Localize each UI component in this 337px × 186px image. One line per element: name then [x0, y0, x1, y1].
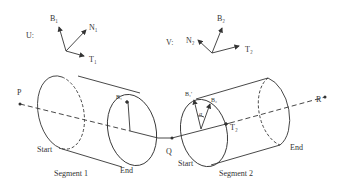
frame-u-label: U:: [26, 31, 34, 40]
segment1-name: Segment 1: [54, 169, 88, 178]
segment2-end-label: End: [290, 143, 303, 152]
frame-v: V: B₂ N₂ T₂: [166, 14, 253, 54]
n2-arrow-icon: [198, 40, 212, 53]
segment1-end-label: End: [120, 166, 133, 175]
point-p-marker: [19, 103, 22, 106]
point-r-marker: [324, 96, 327, 99]
n1-arrow-icon: [66, 30, 86, 51]
point-q-label: Q: [166, 147, 172, 156]
connector-line: [130, 131, 172, 138]
segment2-b-prime-label: B₁': [185, 91, 192, 97]
diagram-canvas: U: B₁ N₁ T₁ V: B₂ N₂ T₂ P B₁ Start End S…: [0, 0, 337, 186]
t1-arrow-icon: [66, 51, 84, 56]
segment1-start-label: Start: [37, 145, 53, 154]
frame-u: U: B₁ N₁ T₁: [26, 14, 98, 64]
n2-label: N₂: [186, 36, 195, 45]
segment1-b-label: B₁: [116, 94, 122, 100]
segment2-name: Segment 2: [219, 169, 253, 178]
t2-arrow-icon: [212, 46, 239, 53]
segment2-t-label: T₂: [230, 123, 238, 132]
point-p-label: P: [17, 88, 22, 97]
segment2-b-label: B₂: [211, 97, 217, 103]
t1-label: T₁: [89, 55, 97, 64]
frame-v-label: V:: [166, 38, 173, 47]
t2-label: T₂: [245, 45, 253, 54]
segment-2-cylinder: [172, 78, 325, 171]
b2-label: B₂: [217, 14, 225, 23]
segment-1-cylinder: [20, 76, 163, 170]
point-r-label: R: [316, 95, 322, 104]
n1-label: N₁: [89, 23, 98, 32]
segment2-start-label: Start: [178, 159, 194, 168]
b1-arrow-icon: [59, 27, 66, 51]
b2-arrow-icon: [212, 28, 222, 53]
b1-label: B₁: [50, 14, 58, 23]
